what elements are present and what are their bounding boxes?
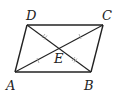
- side-da: [15, 25, 27, 72]
- vertex-label-b: B: [83, 78, 94, 93]
- side-bc: [91, 25, 103, 72]
- vertex-label-c: C: [102, 8, 112, 23]
- vertex-label-a: A: [5, 78, 15, 93]
- intersection-label-e: E: [53, 51, 64, 66]
- vertex-label-d: D: [25, 8, 37, 23]
- parallelogram-diagram: D C A B E: [0, 0, 115, 96]
